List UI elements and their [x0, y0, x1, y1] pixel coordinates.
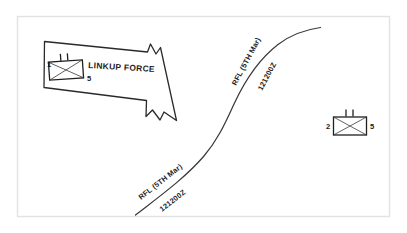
rfl-curve-path: [136, 28, 321, 216]
dtg-label-upper: 121200Z: [256, 60, 278, 91]
arrow-outline: [44, 42, 177, 121]
dtg-label-lower: 121200Z: [158, 187, 188, 213]
right-unit-left-designator: 2: [326, 122, 330, 131]
right-unit-symbol: [334, 110, 367, 136]
right-unit-right-designator: 5: [370, 122, 375, 131]
rfl-label-upper: RFL (5TH Mar): [230, 36, 263, 87]
tactical-diagram-figure: LINKUP FORCE 1 5 RFL (5TH Mar) 121200Z R…: [0, 0, 407, 233]
diagram-canvas: LINKUP FORCE 1 5 RFL (5TH Mar) 121200Z R…: [0, 0, 407, 233]
linkup-force-arrow: [44, 42, 177, 121]
restrictive-fire-line: [136, 28, 321, 216]
